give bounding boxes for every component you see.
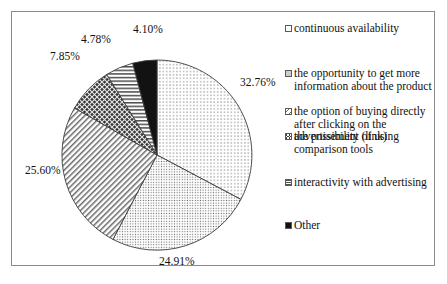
legend-swatch-solid-black-icon xyxy=(285,222,292,229)
data-label-continuous-availability: 32.76% xyxy=(240,76,275,88)
data-label-more-information: 24.91% xyxy=(159,255,194,267)
legend-label-more-information: the opportunity to get more information … xyxy=(294,67,437,92)
chart-frame: 32.76% 24.91% 25.60% 7.85% 4.78% 4.10% c… xyxy=(11,11,435,266)
chart-legend: continuous availability the opportunity … xyxy=(280,12,436,267)
legend-swatch-horizontal-lines-icon xyxy=(285,179,292,186)
data-label-comparison-tools: 7.85% xyxy=(50,50,80,62)
data-label-other: 4.10% xyxy=(133,23,163,35)
legend-swatch-dots-medium-icon xyxy=(285,70,292,77)
legend-item-other[interactable]: Other xyxy=(285,219,437,232)
legend-item-interactivity[interactable]: interactivity with advertising xyxy=(285,176,437,189)
pie-chart-area: 32.76% 24.91% 25.60% 7.85% 4.78% 4.10% xyxy=(12,12,280,267)
legend-item-more-information[interactable]: the opportunity to get more information … xyxy=(285,67,437,92)
legend-label-comparison-tools: the possibility of using comparison tool… xyxy=(294,130,437,155)
legend-label-interactivity: interactivity with advertising xyxy=(294,176,427,189)
legend-label-other: Other xyxy=(294,219,320,232)
data-label-interactivity: 4.78% xyxy=(81,33,111,45)
legend-label-continuous-availability: continuous availability xyxy=(294,22,399,35)
legend-swatch-dots-fine-icon xyxy=(285,25,292,32)
legend-item-continuous-availability[interactable]: continuous availability xyxy=(285,22,437,35)
legend-swatch-diagonal-stripes-icon xyxy=(285,108,292,115)
legend-item-comparison-tools[interactable]: the possibility of using comparison tool… xyxy=(285,130,437,155)
legend-swatch-cross-hatch-icon xyxy=(285,133,292,140)
pie-slices xyxy=(62,60,252,250)
data-label-buying-directly: 25.60% xyxy=(25,164,60,176)
